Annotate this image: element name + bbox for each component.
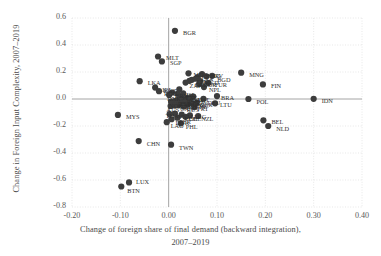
data-point-label: PRT (197, 105, 208, 112)
data-point-marker (164, 119, 170, 125)
data-point-label: LTU (220, 101, 232, 108)
data-point-label: BTN (127, 187, 140, 194)
grid-lines (72, 18, 362, 207)
data-point-label: MYS (126, 113, 140, 120)
data-point-marker (159, 58, 165, 64)
data-point-label: BGR (183, 29, 196, 36)
y-tick-label: -0.8 (38, 201, 66, 210)
data-point-marker (238, 70, 244, 76)
x-tick-label: 0.10 (203, 211, 231, 220)
data-point-label: LUX (136, 178, 149, 185)
y-tick-label: -0.6 (38, 174, 66, 183)
data-point-marker (182, 79, 188, 85)
data-point-label: IDN (322, 97, 333, 104)
x-tick-label: 0.00 (155, 211, 183, 220)
y-tick-label: -0.2 (38, 120, 66, 129)
data-point-label: MNG (249, 71, 264, 78)
data-point-marker (172, 28, 178, 34)
data-point-label: POL (256, 98, 268, 105)
data-point-marker (245, 96, 251, 102)
data-point-label: PHL (186, 123, 198, 130)
data-point-marker (168, 142, 174, 148)
x-tick-label: -0.10 (106, 211, 134, 220)
data-point-label: TWN (179, 144, 193, 151)
data-point-marker (137, 78, 143, 84)
data-point-label: THA (166, 112, 179, 119)
data-point-marker (155, 53, 161, 59)
x-axis-title-line2: 2007–2019 (0, 237, 381, 250)
x-axis-title: Change of foreign share of final demand … (0, 224, 381, 249)
data-point-marker (115, 112, 121, 118)
y-tick-label: 0.6 (38, 12, 66, 21)
data-point-label: CHN (147, 140, 160, 147)
x-tick-label: 0.20 (251, 211, 279, 220)
data-point-label: BRA (221, 94, 234, 101)
data-point-marker (185, 70, 191, 76)
data-point-label: FIN (271, 82, 281, 89)
y-tick-label: 0.0 (38, 93, 66, 102)
data-point-marker (136, 138, 142, 144)
x-tick-label: -0.20 (58, 211, 86, 220)
data-point-marker (118, 183, 124, 189)
data-point-marker (265, 123, 271, 129)
data-point-marker (311, 96, 317, 102)
data-points (115, 28, 317, 190)
x-axis-title-line1: Change of foreign share of final demand … (0, 224, 381, 237)
data-point-marker (260, 117, 266, 123)
data-point-label: ZAF (190, 82, 202, 89)
data-point-label: LKA (148, 79, 161, 86)
y-tick-label: -0.4 (38, 147, 66, 156)
data-point-label: NPL (209, 86, 221, 93)
scatter-chart-figure: -0.20-0.100.000.100.200.300.400.60.40.20… (0, 0, 381, 256)
data-point-label: NZL (201, 115, 213, 122)
y-tick-label: 0.4 (38, 39, 66, 48)
data-point-marker (126, 179, 132, 185)
x-tick-label: 0.40 (348, 211, 376, 220)
x-tick-label: 0.30 (300, 211, 328, 220)
y-tick-label: 0.2 (38, 66, 66, 75)
data-point-label: NLD (276, 125, 289, 132)
data-point-marker (260, 81, 266, 87)
data-point-label: LAO (171, 122, 184, 129)
data-point-label: SGP (170, 59, 182, 66)
y-axis-title: Change in Foreign Input Complexity, 2007… (12, 9, 21, 209)
